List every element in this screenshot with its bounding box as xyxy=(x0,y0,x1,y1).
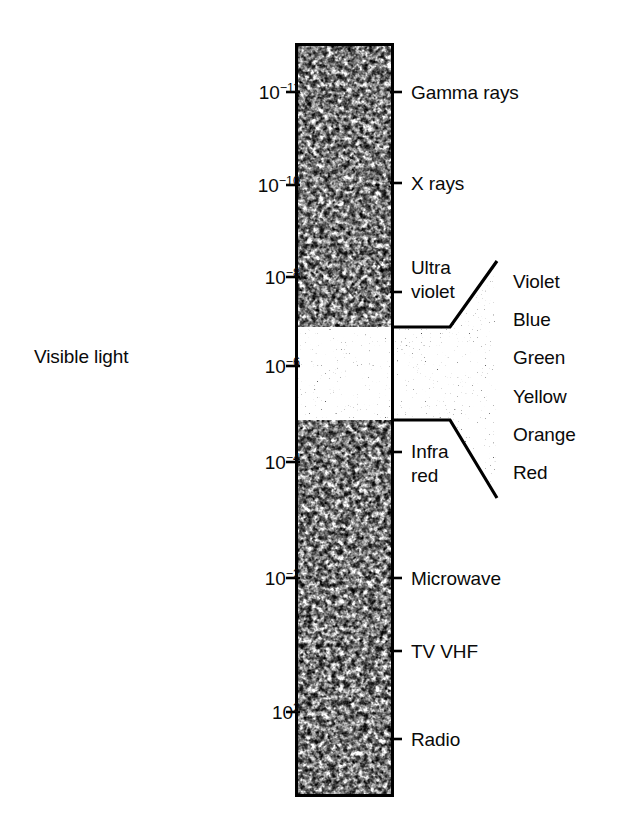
axis-tick-exponent: 2 xyxy=(293,701,300,715)
visible-color-label-yellow: Yellow xyxy=(513,387,567,406)
axis-tick-label-1e-11: 10−11 xyxy=(190,83,300,102)
visible-color-label-green: Green xyxy=(513,348,565,367)
band-label-line: red xyxy=(411,464,449,488)
axis-tick-label-1e-6: 10−6 xyxy=(190,357,300,376)
axis-tick-mantissa: 10 xyxy=(272,702,293,723)
band-label-x-rays: X rays xyxy=(411,174,464,193)
axis-tick-label-1e-4: 10−4 xyxy=(190,453,300,472)
axis-tick-label-1e-2: 10−2 xyxy=(190,569,300,588)
bar-dense-texture-lower xyxy=(297,420,392,794)
band-label-radio: Radio xyxy=(411,730,460,749)
axis-tick-exponent: −2 xyxy=(286,567,300,581)
axis-tick-mantissa: 10 xyxy=(265,568,286,589)
axis-tick-label-1e2: 102 xyxy=(190,703,300,722)
band-label-microwave: Microwave xyxy=(411,569,501,588)
electromagnetic-spectrum-figure: Visible light 10−11 10−10 10−8 10−6 10−4… xyxy=(0,0,622,823)
axis-tick-label-1e-8: 10−8 xyxy=(190,268,300,287)
axis-tick-exponent: −8 xyxy=(286,266,300,280)
spectrum-diagram xyxy=(0,0,622,823)
axis-tick-label-1e-10: 10−10 xyxy=(190,176,300,195)
visible-color-label-blue: Blue xyxy=(513,310,551,329)
axis-tick-mantissa: 10 xyxy=(265,356,286,377)
band-label-tv-vhf: TV VHF xyxy=(411,642,478,661)
axis-tick-mantissa: 10 xyxy=(265,452,286,473)
axis-tick-exponent: −10 xyxy=(279,174,300,188)
axis-tick-exponent: −11 xyxy=(280,81,300,95)
band-label-gamma-rays: Gamma rays xyxy=(411,83,519,102)
axis-tick-exponent: −6 xyxy=(286,355,300,369)
visible-color-label-red: Red xyxy=(513,463,548,482)
band-label-line: Ultra xyxy=(411,256,455,280)
visible-color-label-violet: Violet xyxy=(513,272,560,291)
axis-tick-mantissa: 10 xyxy=(265,267,286,288)
band-label-ultra-violet: Ultra violet xyxy=(411,256,455,304)
visible-color-label-orange: Orange xyxy=(513,425,576,444)
bar-dense-texture-upper xyxy=(297,45,392,327)
visible-light-caption: Visible light xyxy=(34,347,128,366)
axis-tick-mantissa: 10 xyxy=(259,82,280,103)
axis-tick-exponent: −4 xyxy=(286,451,300,465)
band-label-line: violet xyxy=(411,280,455,304)
band-label-line: Infra xyxy=(411,440,449,464)
axis-tick-mantissa: 10 xyxy=(258,175,279,196)
band-label-infra-red: Infra red xyxy=(411,440,449,488)
